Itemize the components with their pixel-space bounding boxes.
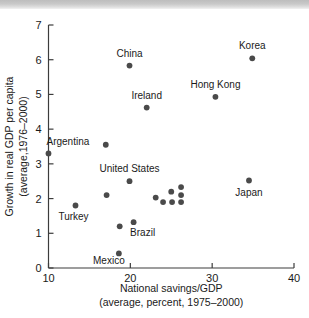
data-point[interactable]	[169, 199, 175, 205]
data-point[interactable]	[104, 192, 110, 198]
x-tick-label: 40	[288, 272, 300, 284]
data-point[interactable]	[178, 184, 184, 190]
data-point-label: Hong Kong	[190, 79, 240, 90]
point-labels-group: ArgentinaTurkeyMexicoChinaUnited StatesB…	[47, 40, 267, 266]
y-tick-label: 4	[35, 123, 41, 135]
tick-labels-group: 0123456710203040	[35, 19, 300, 284]
data-point[interactable]	[103, 142, 109, 148]
data-point[interactable]	[127, 63, 133, 69]
data-point[interactable]	[144, 105, 150, 111]
y-tick-label: 6	[35, 54, 41, 66]
y-tick-label: 0	[35, 262, 41, 274]
data-point-label: Ireland	[131, 90, 162, 101]
y-axis-title: Growth in real GDP per capita	[3, 76, 15, 216]
data-point[interactable]	[73, 203, 79, 209]
y-tick-label: 3	[35, 158, 41, 170]
data-point[interactable]	[246, 178, 252, 184]
data-point[interactable]	[178, 192, 184, 198]
data-point-label: United States	[99, 163, 159, 174]
y-tick-label: 2	[35, 193, 41, 205]
y-tick-label: 7	[35, 19, 41, 31]
data-point[interactable]	[249, 55, 255, 61]
data-point[interactable]	[117, 223, 123, 229]
data-point[interactable]	[160, 199, 166, 205]
x-tick-label: 10	[42, 272, 54, 284]
data-point[interactable]	[153, 195, 159, 201]
data-point[interactable]	[178, 199, 184, 205]
data-point[interactable]	[213, 94, 219, 100]
data-point-label: Brazil	[130, 227, 155, 238]
data-point-label: China	[116, 48, 143, 59]
scatter-plot: 0123456710203040 ArgentinaTurkeyMexicoCh…	[0, 0, 309, 318]
y-tick-label: 1	[35, 227, 41, 239]
data-point-label: Argentina	[47, 136, 90, 147]
y-tick-label: 5	[35, 88, 41, 100]
data-point-label: Korea	[239, 40, 266, 51]
data-point[interactable]	[127, 178, 133, 184]
data-point-label: Japan	[235, 187, 262, 198]
x-axis-subtitle: (average, percent, 1975–2000)	[99, 296, 243, 308]
y-axis-subtitle: (average,1976–2000)	[17, 96, 29, 196]
data-point[interactable]	[46, 151, 52, 157]
chart-figure: 0123456710203040 ArgentinaTurkeyMexicoCh…	[0, 0, 309, 318]
x-axis-title: National savings/GDP	[120, 282, 223, 294]
data-point[interactable]	[168, 189, 174, 195]
data-point[interactable]	[131, 219, 137, 225]
data-point-label: Turkey	[58, 211, 88, 222]
data-point-label: Mexico	[93, 255, 125, 266]
